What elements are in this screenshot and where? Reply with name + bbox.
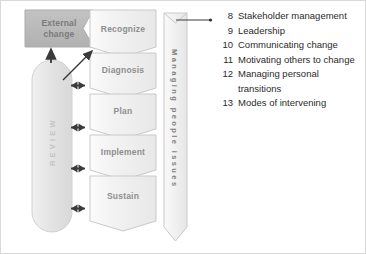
list-item-continuation: transitions [216, 82, 364, 96]
list-item: 12 Managing personal [216, 67, 364, 81]
list-item-text: Stakeholder management [238, 9, 347, 23]
list-item: 9 Leadership [216, 24, 364, 38]
list-item-text: Leadership [238, 24, 285, 38]
stage-shape-implement [90, 135, 156, 180]
external-change-line2: change [44, 29, 75, 39]
stage-label-plan: Plan [93, 106, 153, 116]
list-item-text: Motivating others to change [238, 53, 355, 67]
list-item-number: 9 [216, 24, 233, 38]
list-item: 10 Communicating change [216, 38, 364, 52]
external-change-label: External change [28, 18, 90, 40]
list-item-number: 8 [216, 9, 233, 23]
double-arrow-2 [71, 124, 85, 132]
double-arrow-3 [71, 165, 85, 173]
list-item-text: transitions [238, 82, 281, 96]
double-arrow-4 [71, 205, 85, 213]
list-item-text: Communicating change [238, 38, 338, 52]
list-item-text: Modes of intervening [238, 96, 326, 110]
list-item-number: 11 [216, 53, 233, 67]
list-item-text: Managing personal [238, 67, 319, 81]
external-change-line1: External [41, 18, 76, 28]
stage-label-recognize: Recognize [93, 24, 153, 34]
stage-label-implement: Implement [93, 147, 153, 157]
list-item: 13 Modes of intervening [216, 96, 364, 110]
stage-shape-plan [90, 94, 156, 139]
stage-label-diagnosis: Diagnosis [93, 65, 153, 75]
double-arrow-1 [71, 82, 85, 90]
diagram-canvas: External change Recognize Diagnosis Plan… [0, 0, 366, 254]
list-item: 8 Stakeholder management [216, 9, 364, 23]
list-item: 11 Motivating others to change [216, 53, 364, 67]
stage-shape-sustain [90, 176, 156, 231]
stage-label-sustain: Sustain [93, 191, 153, 201]
banner-label: Managing people issues [170, 49, 179, 189]
list-item-number: 13 [216, 96, 233, 110]
double-arrows [71, 82, 85, 213]
issue-list: 8 Stakeholder management 9 Leadership 10… [216, 9, 364, 111]
list-item-number: 10 [216, 38, 233, 52]
diagonal-arrow [63, 51, 92, 80]
review-bar-label: REVIEW [48, 117, 57, 166]
stage-shape-diagnosis [90, 53, 156, 98]
list-item-number: 12 [216, 67, 233, 81]
